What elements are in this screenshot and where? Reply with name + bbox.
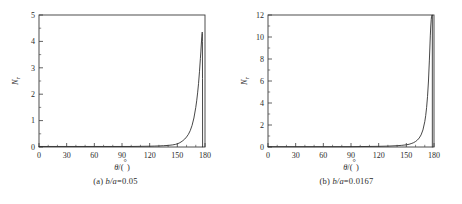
- panel-b-caption-expr: b/a: [332, 176, 343, 186]
- y-tick-label: 2: [260, 121, 264, 130]
- y-tick-label: 5: [31, 11, 35, 20]
- panel-a-caption-value: =0.05: [117, 176, 138, 186]
- x-tick-label: 60: [90, 151, 98, 160]
- figure-container: 0306090120150180012345θ/(°)Nr (a) b/a=0.…: [0, 0, 462, 204]
- y-tick-label: 4: [260, 99, 264, 108]
- chart-svg-a: 0306090120150180012345θ/(°)Nr: [0, 0, 231, 176]
- y-tick-label: 10: [256, 33, 264, 42]
- plot-frame: [39, 15, 205, 147]
- chart-panel-a: 0306090120150180012345θ/(°)Nr (a) b/a=0.…: [0, 0, 231, 204]
- x-tick-label: 180: [199, 151, 211, 160]
- y-tick-label: 2: [31, 90, 35, 99]
- panel-b-caption-prefix: (b): [320, 176, 331, 186]
- x-tick-label: 30: [292, 151, 300, 160]
- x-tick-label: 180: [428, 151, 440, 160]
- x-tick-label: 30: [63, 151, 71, 160]
- y-axis-title: Nr: [10, 76, 21, 86]
- y-tick-label: 4: [31, 37, 35, 46]
- y-tick-label: 1: [31, 116, 35, 125]
- panel-b-caption-value: =0.0167: [344, 176, 374, 186]
- chart-panel-b: 0306090120150180024681012θ/(°)Nr (b) b/a…: [231, 0, 462, 204]
- x-tick-label: 120: [144, 151, 156, 160]
- plot-frame: [268, 15, 434, 147]
- panel-a-caption-prefix: (a): [93, 176, 103, 186]
- x-tick-label: 0: [266, 151, 270, 160]
- data-curve: [39, 32, 203, 147]
- panel-a-caption: (a) b/a=0.05: [0, 176, 231, 186]
- panel-a-caption-expr: b/a: [106, 176, 117, 186]
- x-tick-label: 150: [400, 151, 412, 160]
- y-axis-title: Nr: [239, 76, 250, 86]
- y-tick-label: 6: [260, 77, 264, 86]
- x-tick-label: 120: [373, 151, 385, 160]
- data-curve: [268, 15, 432, 147]
- x-tick-label: 0: [37, 151, 41, 160]
- panel-b-caption: (b) b/a=0.0167: [231, 176, 462, 186]
- y-tick-label: 8: [260, 55, 264, 64]
- x-tick-label: 60: [319, 151, 327, 160]
- y-tick-label: 0: [31, 143, 35, 152]
- y-tick-label: 12: [256, 11, 264, 20]
- y-tick-label: 0: [260, 143, 264, 152]
- y-tick-label: 3: [31, 64, 35, 73]
- chart-svg-b: 0306090120150180024681012θ/(°)Nr: [231, 0, 462, 176]
- x-tick-label: 150: [171, 151, 183, 160]
